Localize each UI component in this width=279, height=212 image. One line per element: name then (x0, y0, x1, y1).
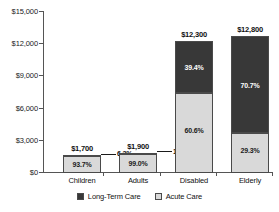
y-tick-label: $12,000 (12, 39, 38, 48)
y-tick-label: $15,000 (12, 7, 38, 16)
y-tick-mark (39, 140, 43, 141)
x-tick-mark (160, 172, 161, 176)
bar-total-label: $1,700 (63, 144, 101, 153)
bar-total-label: $12,800 (231, 25, 269, 34)
y-tick-label: $3,000 (16, 135, 38, 144)
segment-long-term-care[interactable]: 70.7% (231, 36, 269, 133)
bar-total-label: $1,900 (119, 142, 157, 151)
bar-total-label: $12,300 (175, 30, 213, 39)
segment-acute-care[interactable]: 60.6% (175, 93, 213, 173)
x-axis-label-children: Children (63, 176, 101, 185)
x-tick-mark (272, 172, 273, 176)
y-tick-label: $6,000 (16, 103, 38, 112)
callout-leader-line-adults (157, 151, 172, 152)
legend-label: Acute Care (166, 192, 203, 201)
bar-children[interactable]: $1,700 93.7% (63, 155, 101, 173)
x-axis-label-disabled: Disabled (175, 176, 213, 185)
legend-item-acute-care[interactable]: Acute Care (155, 192, 203, 201)
bar-adults[interactable]: $1,900 99.0% (119, 153, 157, 173)
y-tick-label: $9,000 (16, 71, 38, 80)
segment-long-term-care[interactable]: 39.4% (175, 41, 213, 93)
segment-acute-care[interactable]: 29.3% (231, 133, 269, 173)
segment-acute-care[interactable]: 99.0% (119, 154, 157, 173)
legend-swatch-icon (77, 193, 84, 200)
y-tick-mark (39, 172, 43, 173)
x-tick-mark (216, 172, 217, 176)
y-tick-label: $0 (30, 168, 38, 177)
legend-swatch-icon (155, 193, 162, 200)
y-tick-mark (39, 11, 43, 12)
segment-percent-label: 29.3% (232, 147, 268, 154)
segment-percent-label: 70.7% (232, 82, 268, 89)
x-tick-mark (103, 172, 104, 176)
y-tick-mark (39, 108, 43, 109)
segment-percent-label: 93.7% (64, 161, 100, 168)
x-axis-label-adults: Adults (119, 176, 157, 185)
legend-item-long-term-care[interactable]: Long-Term Care (77, 192, 141, 201)
bar-disabled[interactable]: $12,300 39.4% 60.6% (175, 41, 213, 173)
y-axis-line (43, 11, 44, 173)
x-axis-label-elderly: Elderly (231, 176, 269, 185)
stacked-bar-chart: $15,000 $12,000 $9,000 $6,000 $3,000 $0 … (0, 0, 279, 212)
segment-percent-label: 99.0% (120, 160, 156, 167)
y-tick-mark (39, 43, 43, 44)
legend-label: Long-Term Care (88, 192, 141, 201)
segment-percent-label: 60.6% (176, 127, 212, 134)
bar-elderly[interactable]: $12,800 70.7% 29.3% (231, 36, 269, 173)
segment-acute-care[interactable]: 93.7% (63, 156, 101, 173)
segment-percent-label: 39.4% (176, 64, 212, 71)
y-tick-mark (39, 75, 43, 76)
callout-leader-line-children (101, 154, 116, 155)
chart-legend: Long-Term Care Acute Care (0, 192, 279, 201)
